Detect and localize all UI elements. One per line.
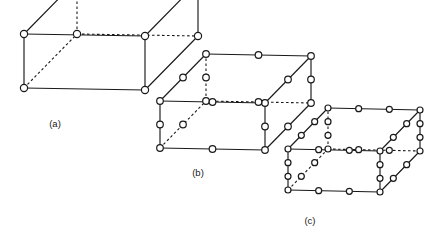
edge-node bbox=[285, 76, 292, 83]
edge-node bbox=[386, 147, 392, 153]
panel-b-group bbox=[157, 51, 315, 154]
edge-node bbox=[312, 160, 318, 166]
edge-node bbox=[356, 147, 362, 153]
edge-node bbox=[346, 147, 352, 153]
corner-node bbox=[157, 145, 164, 152]
visible-edge bbox=[328, 108, 420, 110]
figure-page: (a) (b) (c) bbox=[0, 0, 440, 240]
edge-node bbox=[346, 188, 352, 194]
hidden-edge bbox=[24, 34, 77, 88]
corner-node bbox=[194, 32, 201, 39]
corner-node bbox=[141, 86, 148, 93]
edge-node bbox=[308, 76, 315, 83]
panel-b-caption: (b) bbox=[192, 167, 204, 178]
corner-node bbox=[141, 32, 148, 39]
edge-node bbox=[377, 175, 383, 181]
edge-node bbox=[209, 146, 216, 153]
edge-node bbox=[298, 132, 304, 138]
edge-node bbox=[209, 99, 216, 106]
corner-node bbox=[417, 148, 423, 154]
edge-node bbox=[417, 121, 423, 127]
edge-node bbox=[316, 147, 322, 153]
edge-node bbox=[285, 160, 291, 166]
corner-node bbox=[377, 148, 383, 154]
edge-node bbox=[316, 188, 322, 194]
visible-edge bbox=[24, 0, 77, 34]
corner-node bbox=[20, 84, 27, 91]
edge-node bbox=[390, 175, 396, 181]
hidden-edge bbox=[288, 149, 328, 190]
corner-node bbox=[285, 146, 291, 152]
edge-node bbox=[404, 121, 410, 127]
edge-node bbox=[255, 99, 262, 106]
corner-node bbox=[203, 51, 210, 58]
edge-node bbox=[325, 132, 331, 138]
edge-node bbox=[404, 162, 410, 168]
corner-node bbox=[73, 30, 80, 37]
visible-edge bbox=[24, 88, 145, 90]
visible-edge bbox=[145, 0, 198, 36]
edge-node bbox=[285, 173, 291, 179]
corner-node bbox=[20, 30, 27, 37]
corner-node bbox=[417, 107, 423, 113]
edge-node bbox=[390, 134, 396, 140]
corner-node bbox=[325, 146, 331, 152]
panel-a-group bbox=[20, 0, 201, 94]
edge-node bbox=[203, 74, 210, 81]
visible-edge bbox=[380, 110, 420, 151]
corner-node bbox=[262, 100, 269, 107]
edge-node bbox=[255, 52, 262, 59]
edge-node bbox=[377, 162, 383, 168]
corner-node bbox=[377, 189, 383, 195]
edge-node bbox=[386, 106, 392, 112]
corner-node bbox=[203, 98, 210, 105]
corner-node bbox=[157, 98, 164, 105]
edge-node bbox=[325, 119, 331, 125]
edge-node bbox=[417, 134, 423, 140]
edge-node bbox=[298, 173, 304, 179]
corner-node bbox=[308, 100, 315, 107]
edge-node bbox=[356, 106, 362, 112]
corner-node bbox=[262, 147, 269, 154]
edge-node bbox=[285, 123, 292, 130]
corner-node bbox=[285, 187, 291, 193]
visible-edge bbox=[288, 108, 328, 149]
edge-node bbox=[157, 121, 164, 128]
corner-node bbox=[325, 105, 331, 111]
edge-node bbox=[180, 74, 187, 81]
panel-a-caption: (a) bbox=[49, 118, 61, 129]
panel-c-caption: (c) bbox=[304, 215, 315, 226]
edge-node bbox=[312, 119, 318, 125]
edge-node bbox=[262, 123, 269, 130]
panel-c-group bbox=[285, 105, 423, 195]
visible-edge bbox=[288, 190, 380, 192]
corner-node bbox=[308, 53, 315, 60]
visible-edge bbox=[145, 36, 198, 90]
edge-node bbox=[180, 121, 187, 128]
hexahedral-element-figure: (a) (b) (c) bbox=[0, 0, 440, 240]
visible-edge bbox=[380, 151, 420, 192]
